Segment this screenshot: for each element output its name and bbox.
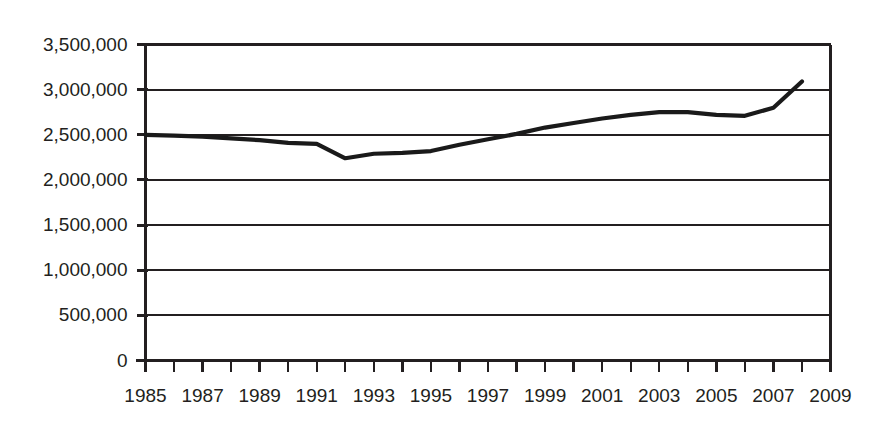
x-axis-tick-label: 1995: [410, 385, 452, 406]
x-axis-tick-marks: [146, 361, 831, 372]
x-axis-tick-label: 2001: [581, 385, 623, 406]
gridlines: [146, 45, 831, 316]
x-axis-tick-label: 2005: [695, 385, 737, 406]
y-axis-tick-label: 1,500,000: [43, 214, 128, 235]
x-axis-tick-label: 1997: [467, 385, 509, 406]
y-axis-tick-label: 1,000,000: [43, 259, 128, 280]
data-series: [146, 82, 802, 159]
x-axis-tick-labels: 1985198719891991199319951997199920012003…: [124, 385, 851, 406]
y-axis-tick-label: 2,000,000: [43, 169, 128, 190]
y-axis-tick-label: 500,000: [59, 304, 128, 325]
x-axis-tick-label: 2003: [638, 385, 680, 406]
x-axis-tick-label: 1985: [124, 385, 166, 406]
y-axis-tick-label: 3,000,000: [43, 79, 128, 100]
x-axis-tick-label: 1993: [353, 385, 395, 406]
y-axis-tick-label: 3,500,000: [43, 34, 128, 55]
y-axis-tick-labels: 3,500,0003,000,0002,500,0002,000,0001,50…: [43, 34, 128, 371]
y-axis-tick-label: 0: [117, 350, 128, 371]
x-axis-tick-label: 1987: [181, 385, 223, 406]
x-axis-tick-label: 2007: [752, 385, 794, 406]
x-axis-tick-label: 1991: [296, 385, 338, 406]
series-line-1: [146, 82, 802, 159]
line-chart: 3,500,0003,000,0002,500,0002,000,0001,50…: [0, 0, 878, 429]
x-axis-tick-label: 1989: [239, 385, 281, 406]
chart-canvas: 3,500,0003,000,0002,500,0002,000,0001,50…: [0, 0, 878, 429]
y-axis-tick-label: 2,500,000: [43, 124, 128, 145]
x-axis-tick-label: 2009: [809, 385, 851, 406]
x-axis-tick-label: 1999: [524, 385, 566, 406]
